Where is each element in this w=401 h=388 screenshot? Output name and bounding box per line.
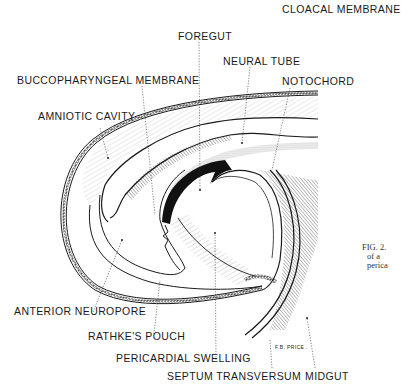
pericardial-swelling xyxy=(178,170,282,290)
figure-caption-line3: perica xyxy=(367,261,388,270)
label-buccopharyngeal-membrane: BUCCOPHARYNGEAL MEMBRANE xyxy=(17,74,199,86)
artist-signature: F.B. PRICE . xyxy=(275,344,308,350)
label-cloacal-membrane: CLOACAL MEMBRANE xyxy=(282,3,401,15)
label-septum-transversum: SEPTUM TRANSVERSUM xyxy=(167,370,301,382)
label-amniotic-cavity: AMNIOTIC CAVITY xyxy=(38,110,135,122)
label-anterior-neuropore: ANTERIOR NEUROPORE xyxy=(14,305,146,317)
label-midgut: MIDGUT xyxy=(305,370,349,382)
mesoderm-hatching xyxy=(260,170,318,330)
label-rathkes-pouch: RATHKE'S POUCH xyxy=(88,330,185,342)
label-neural-tube: NEURAL TUBE xyxy=(223,55,300,67)
foregut-lumen xyxy=(162,160,232,224)
label-pericardial-swelling: PERICARDIAL SWELLING xyxy=(116,352,251,364)
label-foregut: FOREGUT xyxy=(178,30,232,42)
label-notochord: NOTOCHORD xyxy=(282,75,354,87)
